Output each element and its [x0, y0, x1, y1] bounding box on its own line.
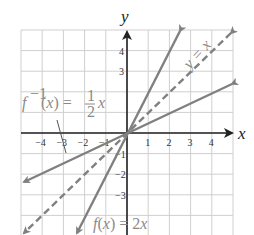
x-tick-label: 4 [209, 137, 214, 148]
svg-text:f: f [22, 94, 29, 112]
x-tick-label: 2 [166, 137, 171, 148]
x-tick-label: −4 [35, 137, 46, 148]
x-axis-label: x [237, 124, 246, 143]
svg-text:(x) =: (x) = [41, 94, 72, 112]
svg-text:1: 1 [87, 87, 95, 104]
x-tick-label: −2 [78, 137, 89, 148]
y-tick-label: 4 [119, 46, 124, 57]
svg-text:2: 2 [87, 103, 95, 120]
svg-text:x: x [97, 94, 105, 111]
y-tick-labels: 43−1−2−3 [115, 46, 126, 201]
f-function-label: f(x) = 2x [93, 215, 147, 233]
x-tick-label: 3 [188, 137, 193, 148]
function-graph: x y −4−3−2−11234 43−1−2−3 y = x f(x) = 2… [0, 0, 254, 235]
y-tick-label: −3 [115, 190, 126, 201]
y-tick-label: 3 [119, 66, 124, 77]
x-tick-label: 1 [145, 137, 150, 148]
f-function-line [77, 31, 180, 233]
y-tick-label: −2 [115, 169, 126, 180]
y-axis-label: y [119, 7, 129, 26]
identity-label: y = x [178, 36, 215, 74]
